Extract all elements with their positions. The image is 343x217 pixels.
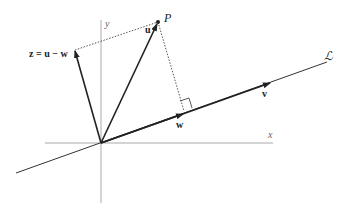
point-P bbox=[156, 20, 160, 24]
dotted-P-to-foot bbox=[158, 22, 184, 111]
point-P-label: P bbox=[164, 12, 171, 24]
vector-u-label: u bbox=[145, 25, 151, 35]
vector-z-label: z = u − w bbox=[29, 49, 68, 59]
y-axis-label: y bbox=[105, 19, 109, 29]
vector-v-label: v bbox=[262, 89, 267, 99]
diagram-canvas bbox=[0, 0, 343, 217]
vector-z bbox=[75, 51, 101, 143]
vector-w-label: w bbox=[176, 120, 183, 130]
projection-diagram: y x P u z = u − w w v ℒ bbox=[0, 0, 343, 217]
x-axis-label: x bbox=[268, 130, 272, 140]
line-L-label: ℒ bbox=[324, 50, 333, 62]
